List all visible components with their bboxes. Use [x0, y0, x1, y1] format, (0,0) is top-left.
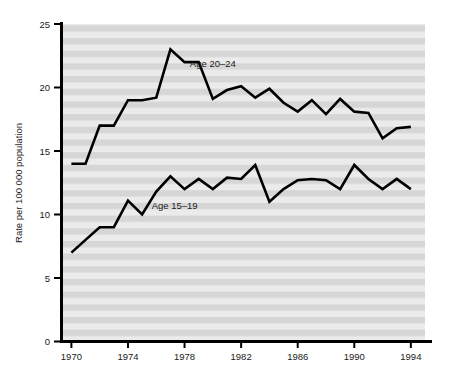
x-tick-label: 1978	[174, 351, 195, 362]
chart-figure: 0510152025 1970197419781982198619901994 …	[0, 0, 451, 382]
y-tick-label: 15	[39, 146, 50, 157]
line-chart: 0510152025 1970197419781982198619901994 …	[0, 0, 451, 382]
y-tick-label: 5	[45, 273, 50, 284]
y-tick-label: 25	[39, 19, 50, 30]
x-tick-label: 1974	[117, 351, 138, 362]
y-tick-label: 20	[39, 82, 50, 93]
x-axis-ticks: 1970197419781982198619901994	[61, 342, 422, 363]
series-label: Age 20–24	[190, 58, 236, 69]
x-tick-label: 1970	[61, 351, 82, 362]
x-tick-label: 1982	[231, 351, 252, 362]
y-axis-title: Rate per 100 000 population	[13, 123, 24, 243]
y-tick-label: 10	[39, 209, 50, 220]
x-tick-label: 1994	[400, 351, 421, 362]
x-tick-label: 1990	[344, 351, 365, 362]
y-axis-ticks: 0510152025	[39, 19, 61, 348]
plot-area-background	[61, 24, 425, 341]
series-label: Age 15–19	[152, 200, 198, 211]
x-tick-label: 1986	[287, 351, 308, 362]
y-tick-label: 0	[45, 336, 50, 347]
